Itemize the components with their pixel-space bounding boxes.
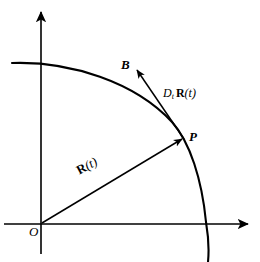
derivative-d-symbol: D <box>163 86 172 100</box>
tangent-vector-DtR <box>137 70 184 139</box>
derivative-argument: (t) <box>185 86 196 100</box>
tangent-endpoint-label: B <box>121 58 130 71</box>
diagram-svg <box>0 0 260 262</box>
derivative-subscript-t: t <box>172 92 174 101</box>
derivative-r-symbol: R <box>176 86 185 100</box>
position-vector-R <box>42 139 182 223</box>
point-p-label: P <box>189 130 197 143</box>
figure-canvas: O P B DtR(t) R(t) <box>0 0 260 262</box>
origin-label: O <box>29 225 38 238</box>
derivative-vector-label: DtR(t) <box>163 87 196 101</box>
